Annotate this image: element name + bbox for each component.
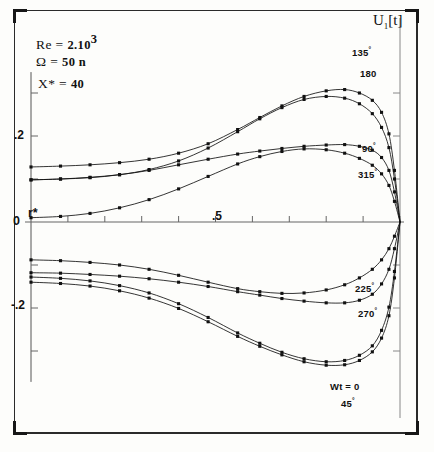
curve-label-135: 135° bbox=[352, 46, 371, 58]
data-point bbox=[303, 300, 306, 303]
data-point bbox=[236, 287, 239, 290]
data-point bbox=[258, 290, 261, 293]
data-point bbox=[148, 169, 151, 172]
curve-label-text: 225 bbox=[355, 283, 371, 294]
data-point bbox=[59, 177, 62, 180]
data-point bbox=[325, 95, 328, 98]
series-270- bbox=[29, 222, 400, 304]
data-point bbox=[118, 206, 121, 209]
curve-label-text: 270 bbox=[358, 308, 374, 319]
data-point bbox=[380, 126, 383, 129]
data-point bbox=[343, 143, 346, 146]
data-point bbox=[29, 178, 32, 181]
curve-label-text: 180 bbox=[360, 68, 376, 79]
data-point bbox=[358, 359, 361, 362]
data-point bbox=[258, 345, 261, 348]
curve-label-90: 90° bbox=[362, 142, 376, 154]
data-point bbox=[118, 173, 121, 176]
data-point bbox=[358, 157, 361, 160]
data-point bbox=[118, 275, 121, 278]
y-axis-title: U1[t] bbox=[373, 12, 403, 31]
x-axis-label: r* bbox=[28, 206, 38, 220]
data-point bbox=[258, 117, 261, 120]
data-point bbox=[325, 89, 328, 92]
data-point bbox=[393, 235, 396, 238]
data-point bbox=[148, 158, 151, 161]
data-point bbox=[371, 344, 374, 347]
series-line bbox=[31, 96, 400, 222]
curve-label-text: 315 bbox=[358, 169, 374, 180]
curve-label-text: 90 bbox=[362, 143, 373, 154]
curve-label-text: 45 bbox=[341, 398, 352, 409]
data-point bbox=[59, 272, 62, 275]
data-point bbox=[393, 190, 396, 193]
data-point bbox=[236, 162, 239, 165]
data-point bbox=[371, 112, 374, 115]
data-point bbox=[343, 283, 346, 286]
data-point bbox=[29, 275, 32, 278]
data-point bbox=[387, 247, 390, 250]
data-point bbox=[207, 175, 210, 178]
data-point bbox=[258, 150, 261, 153]
curve-label-wt-0: Wt = 0 bbox=[330, 381, 359, 392]
data-point bbox=[280, 150, 283, 153]
data-point bbox=[88, 176, 91, 179]
curve-label-180: 180 bbox=[360, 68, 376, 79]
data-point bbox=[148, 198, 151, 201]
series-line bbox=[31, 222, 400, 362]
data-point bbox=[88, 273, 91, 276]
data-point bbox=[325, 301, 328, 304]
y-tick-label-pos: .2 bbox=[14, 128, 24, 142]
data-point bbox=[88, 163, 91, 166]
data-point bbox=[177, 274, 180, 277]
data-point bbox=[59, 259, 62, 262]
curve-label-text: Wt = 0 bbox=[330, 381, 359, 392]
data-point bbox=[177, 281, 180, 284]
series-line bbox=[31, 222, 400, 293]
series-wt-0 bbox=[29, 222, 400, 363]
data-point bbox=[325, 364, 328, 367]
data-point bbox=[280, 297, 283, 300]
data-point bbox=[118, 289, 121, 292]
data-point bbox=[303, 95, 306, 98]
data-point bbox=[380, 172, 383, 175]
data-point bbox=[387, 314, 390, 317]
data-point bbox=[371, 268, 374, 271]
data-point bbox=[343, 97, 346, 100]
curve-label-225: 225° bbox=[355, 282, 374, 294]
data-point bbox=[177, 187, 180, 190]
data-point bbox=[393, 276, 396, 279]
data-point bbox=[207, 320, 210, 323]
data-point bbox=[88, 212, 91, 215]
x-tick-label-half: .5 bbox=[212, 209, 222, 223]
data-point bbox=[380, 329, 383, 332]
data-point bbox=[118, 161, 121, 164]
data-point bbox=[236, 335, 239, 338]
data-point bbox=[88, 285, 91, 288]
data-point bbox=[258, 294, 261, 297]
data-point bbox=[207, 281, 210, 284]
data-point bbox=[393, 247, 396, 250]
series-line bbox=[31, 222, 400, 365]
data-point bbox=[29, 281, 32, 284]
data-point bbox=[325, 143, 328, 146]
data-point bbox=[207, 158, 210, 161]
data-point bbox=[236, 153, 239, 156]
data-point bbox=[358, 354, 361, 357]
data-point bbox=[177, 302, 180, 305]
data-point bbox=[380, 156, 383, 159]
series-45- bbox=[29, 222, 400, 367]
data-point bbox=[358, 276, 361, 279]
series-225- bbox=[29, 222, 400, 295]
data-point bbox=[207, 285, 210, 288]
data-point bbox=[343, 152, 346, 155]
data-point bbox=[207, 146, 210, 149]
data-point bbox=[380, 282, 383, 285]
data-point bbox=[207, 316, 210, 319]
data-point bbox=[148, 277, 151, 280]
data-point bbox=[325, 288, 328, 291]
data-point bbox=[358, 299, 361, 302]
y-tick-label-neg: -.2 bbox=[11, 298, 25, 312]
data-point bbox=[387, 132, 390, 135]
data-point bbox=[358, 145, 361, 148]
